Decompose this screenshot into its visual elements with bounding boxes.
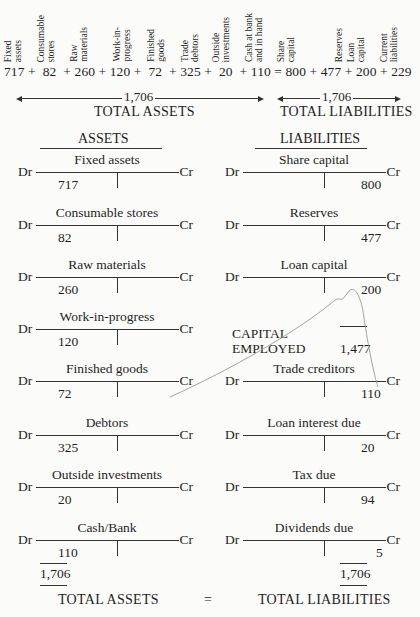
credit-value: 5 — [376, 545, 383, 561]
debit-value: 110 — [58, 545, 78, 561]
assets-total-rule — [40, 585, 67, 586]
t-account-outside-investments: Outside investments DrCr 20 — [18, 467, 193, 517]
t-account-loan-capital: Loan capital DrCr 200 — [225, 257, 400, 307]
t-account-dividends-due: Dividends due DrCr 5 — [225, 520, 400, 570]
footer-total-assets: TOTAL ASSETS — [58, 592, 159, 608]
assets-heading-rule — [40, 148, 162, 149]
debit-value: 82 — [58, 230, 72, 246]
liabilities-total-value: 1,706 — [320, 89, 353, 105]
footer-total-liabilities: TOTAL LIABILITIES — [258, 592, 391, 608]
arrow-right-icon — [258, 96, 264, 102]
t-account-tax-due: Tax due DrCr 94 — [225, 467, 400, 517]
liabilities-total: 1,706 — [340, 566, 370, 582]
t-account-debtors: Debtors DrCr 325 — [18, 415, 193, 465]
capital-employed-label-line1: CAPITAL — [232, 326, 288, 342]
col-label-consumable-stores: Consumable stores — [36, 15, 56, 63]
t-account-share-capital: Share capital DrCr 800 — [225, 152, 400, 202]
assets-total-value: 1,706 — [122, 89, 155, 105]
accounting-equation: 717 + 82 + 260 + 120 + 72 + 325 + 20 + 1… — [4, 64, 412, 80]
arrow-right-icon — [395, 96, 401, 102]
col-label-cash-at-bank: Cash at bank and in hand — [244, 13, 264, 62]
debit-value: 717 — [58, 177, 78, 193]
col-label-loan-capital: Loan capital — [346, 37, 366, 62]
col-label-current-liabilities: Current liabilities — [379, 27, 399, 62]
credit-value: 110 — [361, 386, 381, 402]
t-account-loan-interest-due: Loan interest due DrCr 20 — [225, 415, 400, 465]
capital-employed-rule — [340, 326, 367, 327]
t-account-reserves: Reserves DrCr 477 — [225, 205, 400, 255]
arrow-left-icon — [277, 96, 283, 102]
footer-equals: = — [204, 592, 212, 608]
col-label-raw-materials: Raw materials — [69, 27, 89, 62]
col-label-reserves: Reserves — [334, 28, 344, 62]
t-account-fixed-assets: Fixed assets DrCr 717 — [18, 152, 193, 202]
debit-value: 120 — [58, 334, 78, 350]
col-label-outside-investments: Outside investments — [211, 17, 231, 62]
credit-value: 800 — [361, 177, 381, 193]
debit-value: 20 — [58, 492, 72, 508]
t-account-work-in-progress: Work-in-progress DrCr 120 — [18, 309, 193, 359]
capital-employed-value: 1,477 — [340, 341, 370, 357]
liabilities-heading: LIABILITIES — [280, 131, 360, 147]
t-account-raw-materials: Raw materials DrCr 260 — [18, 257, 193, 307]
t-account-finished-goods: Finished goods DrCr 72 — [18, 361, 193, 411]
assets-sum-rule — [40, 563, 67, 564]
liabilities-sum-rule — [340, 563, 367, 564]
total-assets-caption: TOTAL ASSETS — [94, 104, 195, 120]
credit-value: 20 — [361, 440, 375, 456]
liabilities-heading-rule — [255, 148, 367, 149]
col-label-share-capital: Share capital — [276, 37, 296, 62]
credit-value: 200 — [361, 282, 381, 298]
debit-value: 260 — [58, 282, 78, 298]
col-label-fixed-assets: Fixed assets — [3, 40, 23, 62]
arrow-left-icon — [16, 96, 22, 102]
debit-value: 72 — [58, 386, 72, 402]
capital-employed-label-line2: EMPLOYED — [232, 341, 306, 357]
debit-value: 325 — [58, 440, 78, 456]
t-account-trade-creditors: Trade creditors DrCr 110 — [225, 361, 400, 411]
credit-value: 477 — [361, 230, 381, 246]
assets-heading: ASSETS — [78, 131, 129, 147]
col-label-trade-debtors: Trade debtors — [180, 34, 200, 62]
assets-total: 1,706 — [40, 566, 70, 582]
total-liabilities-caption: TOTAL LIABILITIES — [280, 104, 413, 120]
credit-value: 94 — [361, 492, 375, 508]
col-label-work-in-progress: Work-in- progress — [112, 27, 132, 62]
col-label-finished-goods: Finished goods — [146, 29, 166, 62]
t-account-consumable-stores: Consumable stores DrCr 82 — [18, 205, 193, 255]
liabilities-total-rule — [340, 585, 367, 586]
